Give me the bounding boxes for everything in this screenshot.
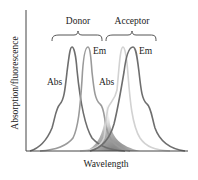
- donor-label: Donor: [66, 16, 91, 26]
- donor-abs-label: Abs: [47, 77, 63, 87]
- donor-emission-curve: [40, 47, 130, 151]
- x-axis-label: Wavelength: [83, 159, 128, 169]
- acceptor-bracket: [106, 31, 156, 41]
- acceptor-abs-label: Abs: [99, 77, 115, 87]
- y-axis-label: Absorption/fluorescence: [10, 36, 20, 129]
- acceptor-em-label: Em: [139, 46, 153, 56]
- fret-diagram: Donor Acceptor Abs Em Abs Em Wavelength …: [0, 0, 198, 180]
- donor-bracket: [52, 31, 102, 41]
- donor-em-label: Em: [93, 46, 107, 56]
- acceptor-label: Acceptor: [115, 16, 151, 26]
